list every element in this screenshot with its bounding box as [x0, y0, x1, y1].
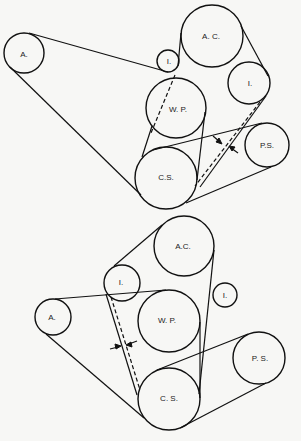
- label-power-steering: P.S.: [260, 141, 274, 150]
- belt-a-to-crankshaft: [10, 67, 141, 195]
- label-water-pump: W. P.: [158, 316, 176, 325]
- belt-cs-to-ps-lower: [186, 167, 271, 203]
- belt-cs-to-ps-lower: [180, 383, 266, 428]
- belt-idler-to-cs: [106, 294, 137, 395]
- arrowhead-left-icon: [115, 344, 121, 349]
- belt-wp-left-to-cs: [142, 126, 152, 157]
- belt-alt-idler-to-wp: [151, 75, 175, 133]
- belt-routing-diagrams: A. I. A. C. I. W. P. C.S. P.S. A.C. I: [0, 0, 301, 441]
- label-crankshaft: C.S.: [158, 173, 174, 182]
- label-power-steering: P. S.: [252, 354, 268, 363]
- belt-wp-right-to-cs: [197, 112, 205, 180]
- label-alternator: A.: [20, 50, 28, 59]
- label-air-conditioner: A. C.: [202, 32, 220, 41]
- arrowhead-right-icon: [126, 342, 132, 347]
- label-crankshaft: C. S.: [160, 394, 178, 403]
- belt-alt-idler-to-cs: [111, 297, 140, 390]
- label-air-conditioner: A.C.: [175, 242, 191, 251]
- belt-idler-to-ac: [114, 225, 162, 266]
- belt-ac-right-to-cs: [199, 250, 214, 394]
- label-idler-small: I.: [167, 57, 171, 66]
- label-idler-right: I.: [223, 291, 227, 300]
- bottom-diagram: A.C. I. I. A. W. P. C. S. P. S.: [35, 216, 285, 430]
- label-alternator: A.: [48, 313, 56, 322]
- top-diagram: A. I. A. C. I. W. P. C.S. P.S.: [4, 5, 289, 209]
- label-idler-right: I.: [248, 79, 252, 88]
- label-water-pump: W. P.: [169, 105, 187, 114]
- label-idler-left: I.: [119, 278, 123, 287]
- belt-a-to-idler: [29, 33, 168, 72]
